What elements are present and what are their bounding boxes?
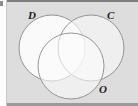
venn-label-d: D [28,10,36,21]
venn-figure: D C O [0,0,138,106]
bottom-rule [7,103,138,106]
venn-circles [7,0,138,106]
gutter-edge-line [6,0,7,106]
circle-set-o [38,33,104,99]
top-rule [7,0,138,2]
venn-label-o: O [99,84,107,95]
page-corner-mark [0,1,3,6]
venn-label-c: C [107,10,114,21]
